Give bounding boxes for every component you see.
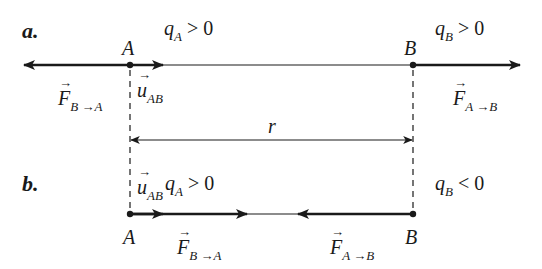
force-label-b-to-a-b: FB →A [177,237,221,257]
distance-r-label: r [268,116,276,136]
part-a-label: a. [22,20,39,42]
point-b-dot-a [410,62,416,68]
force-label-a-to-b-b: FA →B [330,237,374,257]
charge-qa-a: qA > 0 [164,18,213,38]
unit-vector-label-a: uAB [137,80,163,100]
point-a-label-a: A [122,38,134,58]
point-b-label-b: B [405,227,417,247]
force-label-a-to-b-a: FA →B [453,88,497,108]
charge-qb-a: qB > 0 [435,18,484,38]
force-label-b-to-a-a: FB →A [58,88,102,108]
point-a-dot-a [127,62,133,68]
charge-qb-b: qB < 0 [435,173,484,193]
unit-vector-label-b: uAB [137,177,163,197]
point-a-dot-b [127,211,133,217]
point-b-dot-b [410,211,416,217]
point-b-label-a: B [404,38,416,58]
point-a-label-b: A [123,227,135,247]
charge-qa-b: qA > 0 [165,173,214,193]
part-b-label: b. [22,173,39,195]
